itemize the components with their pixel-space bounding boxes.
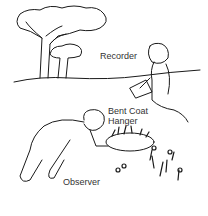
observer-label: Observer bbox=[63, 177, 100, 187]
recorder-label: Recorder bbox=[100, 51, 137, 61]
field-survey-drawing bbox=[0, 0, 208, 216]
clipboard-icon bbox=[130, 80, 152, 98]
small-tree-icon bbox=[50, 44, 82, 78]
hanger-label-line1: Bent Coat bbox=[108, 106, 148, 116]
hanger-label-line2: Hanger bbox=[108, 116, 138, 126]
illustration: Recorder Bent Coat Hanger Observer bbox=[0, 0, 208, 216]
tree-icon bbox=[17, 6, 106, 78]
observer-figure bbox=[20, 110, 108, 182]
plants-icon bbox=[112, 126, 182, 180]
horizon-line bbox=[14, 70, 200, 82]
